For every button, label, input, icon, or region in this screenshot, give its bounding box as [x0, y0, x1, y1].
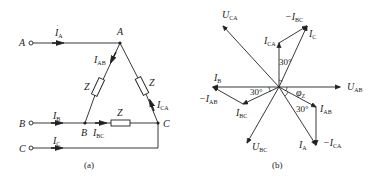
dot-accent: · — [57, 23, 59, 29]
i-ab-label: IAB — [319, 103, 332, 115]
neg-i-ca-label: −ICA — [323, 137, 342, 149]
i-c-label: IC — [52, 135, 60, 147]
terminal-c-label: C — [19, 143, 26, 154]
terminal-a — [29, 41, 33, 45]
terminal-c — [29, 146, 33, 150]
i-c-label: IC — [308, 28, 316, 40]
u-ca-label: UCA — [222, 9, 238, 21]
node-c-label: C — [163, 118, 170, 129]
phasor-diagram-b: UAB UCA UBC IB −IAB IBC ICA −IBC IC IAB … — [199, 9, 363, 170]
three-phase-delta-figure: A IA · A Z IAB Z ICA B IB B — [0, 0, 380, 181]
angle-arc-bottom — [285, 92, 288, 96]
impedance-z-bc — [111, 120, 130, 126]
u-ca-phasor — [223, 26, 279, 87]
caption-b: (b) — [272, 160, 283, 170]
branch-ab-wire-bottom — [85, 95, 95, 123]
z-ca-label: Z — [149, 77, 155, 88]
terminal-b-label: B — [19, 118, 25, 129]
impedance-z-ca — [135, 77, 149, 96]
i-a-label: IA — [298, 139, 307, 151]
angle-arc-phi — [286, 87, 287, 91]
i-b-label: IB — [213, 72, 221, 84]
phi-z-label: φZ — [296, 87, 306, 99]
node-a-label: A — [116, 26, 124, 37]
angle-arc-left — [269, 87, 271, 92]
i-bc-label: IBC — [92, 127, 104, 139]
z-ab-label: Z — [84, 81, 90, 92]
angle-label-left: 30° — [250, 87, 263, 97]
i-ca-label: ICA — [263, 35, 276, 47]
u-bc-label: UBC — [252, 141, 267, 153]
terminal-b — [29, 121, 33, 125]
node-b — [83, 121, 86, 124]
i-ab-arrow — [112, 52, 116, 60]
u-ab-label: UAB — [347, 81, 363, 93]
i-a-label: IA — [54, 27, 63, 39]
neg-i-ab-label: −IAB — [199, 93, 217, 105]
node-b-label: B — [81, 127, 87, 138]
i-ab-label: IAB — [93, 54, 106, 66]
branch-ca-wire-top — [120, 43, 139, 80]
terminal-a-label: A — [18, 37, 26, 48]
z-bc-label: Z — [117, 107, 123, 118]
neg-i-bc-label: −IBC — [285, 11, 303, 23]
impedance-z-ab — [91, 78, 104, 97]
i-bc-label: IBC — [235, 107, 247, 119]
i-b-label: IB — [52, 110, 60, 122]
neg-i-ab-phasor — [213, 87, 243, 104]
i-ca-label: ICA — [156, 99, 169, 111]
circuit-diagram-a: A IA · A Z IAB Z ICA B IB B — [18, 23, 170, 170]
angle-label-bottom: 30° — [296, 104, 309, 114]
angle-label-top: 30° — [279, 57, 292, 67]
caption-a: (a) — [84, 160, 94, 170]
